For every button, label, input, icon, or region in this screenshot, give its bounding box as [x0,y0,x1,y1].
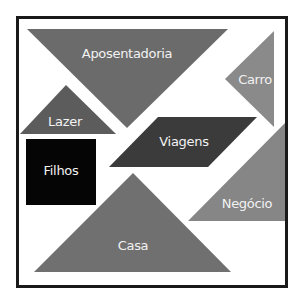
label-lazer: Lazer [48,114,83,129]
label-viagens: Viagens [159,134,209,149]
tangram-diagram: Aposentadoria Carro Lazer Filhos Viagens… [0,0,302,302]
tangram-pieces: Aposentadoria Carro Lazer Filhos Viagens… [0,0,302,302]
label-negocio: Negócio [222,196,273,211]
label-casa: Casa [118,238,149,253]
label-carro: Carro [238,72,272,87]
piece-viagens: Viagens [109,117,257,167]
label-aposentadoria: Aposentadoria [82,46,172,61]
piece-carro: Carro [225,31,274,127]
label-filhos: Filhos [44,163,79,178]
piece-filhos: Filhos [26,139,96,205]
